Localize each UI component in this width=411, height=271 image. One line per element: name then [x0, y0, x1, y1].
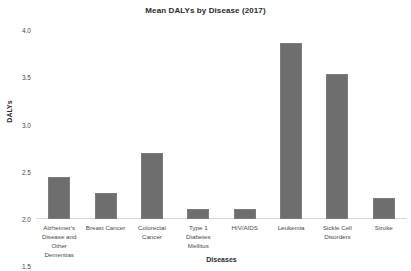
- bar[interactable]: [187, 209, 209, 219]
- bar[interactable]: [280, 43, 302, 219]
- bar-series: [36, 30, 407, 219]
- chart-title: Mean DALYs by Disease (2017): [0, 6, 411, 15]
- bar[interactable]: [141, 153, 163, 219]
- bar[interactable]: [48, 177, 70, 219]
- x-axis-tick-label: ColorectalCancer: [129, 223, 175, 241]
- bar-slot: [175, 30, 221, 219]
- plot-area: 4.03.53.02.52.01.51.00.50.0: [36, 30, 407, 219]
- bar[interactable]: [326, 74, 348, 219]
- bar[interactable]: [95, 193, 117, 219]
- bar-slot: [268, 30, 314, 219]
- y-axis-tick-label: 1.5: [1, 263, 31, 270]
- bar-slot: [314, 30, 360, 219]
- x-axis-tick-label: Type 1DiabetesMellitus: [175, 223, 221, 250]
- bar-slot: [82, 30, 128, 219]
- x-axis-tick-label: Sickle CellDisorders: [314, 223, 360, 241]
- bar-chart: Mean DALYs by Disease (2017) DALYs 4.03.…: [0, 0, 411, 271]
- y-axis-tick-label: 3.0: [1, 121, 31, 128]
- gridline: 0.0: [36, 219, 407, 220]
- x-axis-tick-label: HIV/AIDS: [222, 223, 268, 232]
- bar-slot: [361, 30, 407, 219]
- x-axis-tick-label: Stroke: [361, 223, 407, 232]
- x-axis-tick-label: Leukemia: [268, 223, 314, 232]
- y-axis-tick-label: 4.0: [1, 27, 31, 34]
- y-axis-tick-label: 3.5: [1, 74, 31, 81]
- bar-slot: [36, 30, 82, 219]
- bar-slot: [222, 30, 268, 219]
- y-axis-tick-label: 2.0: [1, 216, 31, 223]
- y-axis-tick-label: 2.5: [1, 168, 31, 175]
- x-axis-ticks: Alzheimer'sDisease andOtherDementiasBrea…: [36, 223, 407, 259]
- bar[interactable]: [234, 209, 256, 219]
- x-axis-tick-label: Alzheimer'sDisease andOtherDementias: [36, 223, 82, 259]
- x-axis-title: Diseases: [36, 256, 407, 263]
- bar-slot: [129, 30, 175, 219]
- bar[interactable]: [373, 198, 395, 219]
- x-axis-tick-label: Breast Cancer: [82, 223, 128, 232]
